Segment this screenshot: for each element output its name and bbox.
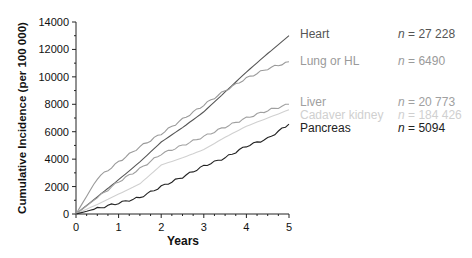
x-tick-label: 1 <box>116 221 122 233</box>
x-tick-label: 3 <box>201 221 207 233</box>
line-chart: 02000400060008000100001200014000012345 C… <box>0 0 472 258</box>
y-tick-label: 4000 <box>45 153 69 165</box>
axes: 02000400060008000100001200014000012345 <box>38 16 292 233</box>
y-tick-label: 12000 <box>38 43 69 55</box>
y-axis-label: Cumulative Incidence (per 100 000) <box>16 22 28 214</box>
series-line-pancreas <box>76 124 289 214</box>
y-tick-label: 2000 <box>45 181 69 193</box>
series-line-heart <box>76 36 289 214</box>
x-tick-label: 2 <box>158 221 164 233</box>
series-line-liver <box>76 104 289 214</box>
y-tick-label: 14000 <box>38 16 69 28</box>
series-lines <box>76 36 289 214</box>
x-tick-label: 5 <box>286 221 292 233</box>
y-tick-label: 10000 <box>38 71 69 83</box>
y-tick-label: 0 <box>63 208 69 220</box>
y-tick-label: 8000 <box>45 98 69 110</box>
y-tick-label: 6000 <box>45 126 69 138</box>
x-axis-label: Years <box>167 234 199 248</box>
x-tick-label: 0 <box>73 221 79 233</box>
series-line-cadaver-kidney <box>76 110 289 214</box>
x-tick-label: 4 <box>243 221 249 233</box>
